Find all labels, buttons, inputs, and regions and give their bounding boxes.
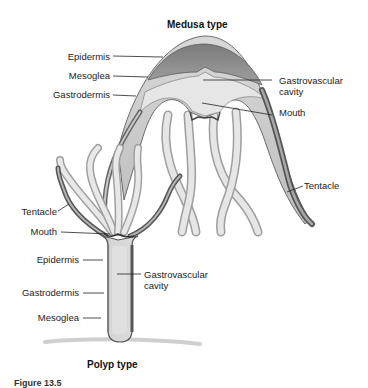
- medusa-title: Medusa type: [167, 19, 228, 30]
- polyp-label-epidermis: Epidermis: [37, 254, 79, 265]
- polyp-label-mesoglea: Mesoglea: [38, 312, 79, 323]
- medusa-label-mesoglea: Mesoglea: [69, 70, 110, 81]
- polyp-label-gastrodermis: Gastrodermis: [22, 287, 79, 298]
- figure-caption: Figure 13.5: [14, 378, 62, 388]
- polyp-label-mouth: Mouth: [31, 226, 57, 237]
- medusa-tentacles: [166, 112, 258, 232]
- polyp-gastrovascular-cavity: [112, 246, 127, 334]
- polyp-label-gastrovascular-cavity: Gastrovascular cavity: [144, 269, 208, 291]
- medusa-label-gastrovascular-cavity: Gastrovascular cavity: [279, 75, 343, 97]
- polyp-title: Polyp type: [87, 359, 138, 370]
- medusa-label-mouth: Mouth: [279, 107, 305, 118]
- polyp-label-tentacle: Tentacle: [22, 206, 57, 217]
- medusa-label-tentacle: Tentacle: [304, 180, 339, 191]
- medusa-label-gastrodermis: Gastrodermis: [53, 89, 110, 100]
- medusa-label-epidermis: Epidermis: [68, 51, 110, 62]
